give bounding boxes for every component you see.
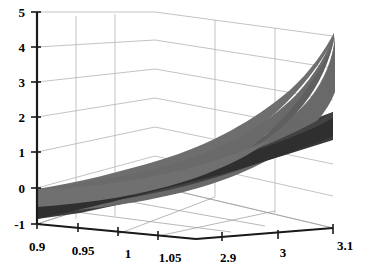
z-tick-label-0: 0 (19, 181, 26, 196)
z-tick-label-5: 5 (19, 5, 26, 20)
y-tick-label-3: 3 (280, 245, 287, 260)
surface-plot-figure: 5 4 3 2 1 0 -1 0.9 0.95 1 1.05 2.9 3 3.1 (0, 0, 370, 273)
gridline-z-5-right (155, 12, 333, 36)
x-tick-label-095: 0.95 (72, 243, 95, 258)
y-tick-label-31: 3.1 (337, 238, 353, 253)
gridline-z-1-left (37, 127, 155, 152)
x-axis-tick-labels: 0.9 0.95 1 1.05 (29, 239, 182, 265)
z-tick-label-neg1: -1 (14, 217, 25, 232)
x-tick-label-1: 1 (125, 246, 132, 261)
gridline-z-4-right (155, 40, 333, 68)
gridline-z-2-left (37, 98, 155, 117)
z-tick-label-4: 4 (19, 40, 26, 55)
gridline-z-4-left (37, 40, 155, 47)
y-tick-label-29: 2.9 (220, 250, 237, 265)
plot-svg: 5 4 3 2 1 0 -1 0.9 0.95 1 1.05 2.9 3 3.1 (0, 0, 370, 273)
z-tick-label-3: 3 (19, 75, 26, 90)
y-axis-line (196, 228, 333, 239)
z-tick-label-2: 2 (19, 110, 26, 125)
z-tick-label-1: 1 (19, 145, 26, 160)
x-tick-label-09: 0.9 (29, 239, 46, 254)
y-axis-tick-labels: 2.9 3 3.1 (220, 238, 353, 265)
x-tick-label-105: 1.05 (159, 250, 182, 265)
floor-gridline-x-1 (115, 199, 265, 226)
x-axis-line (37, 224, 196, 239)
gridline-z-3-left (37, 69, 155, 82)
z-axis-tick-labels: 5 4 3 2 1 0 -1 (14, 5, 25, 232)
floor-gridline-y-3 (158, 211, 275, 236)
